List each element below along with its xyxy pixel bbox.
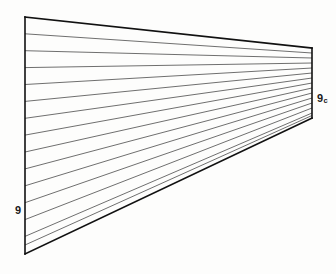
ruled-surface-diagram: 9 9 c <box>0 0 336 274</box>
figure-container: 9 9 c <box>0 0 336 274</box>
diagram-background <box>0 0 336 274</box>
label-left-9: 9 <box>15 204 21 216</box>
label-right-9c: 9 <box>317 92 323 104</box>
label-right-subscript-c: c <box>324 96 328 105</box>
